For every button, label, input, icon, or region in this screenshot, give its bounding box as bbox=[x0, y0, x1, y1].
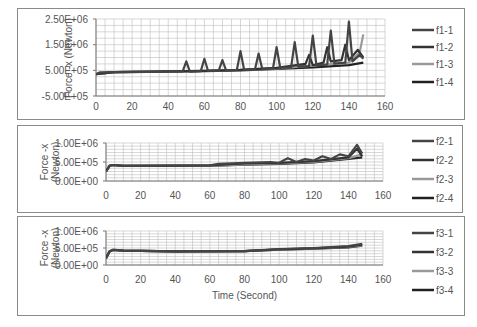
x-tick-label: 160 bbox=[375, 274, 392, 285]
x-tick-label: 40 bbox=[163, 101, 175, 112]
y-tick-label: 5.00E+05 bbox=[55, 157, 99, 168]
legend-label: f3-1 bbox=[436, 228, 454, 239]
y-tick-label: 1.00E+06 bbox=[55, 226, 99, 237]
legend-label: f1-4 bbox=[436, 77, 454, 88]
series-line-f1-3 bbox=[96, 34, 363, 74]
y-axis-label: Force -x bbox=[39, 144, 50, 181]
x-tick-label: 20 bbox=[135, 190, 147, 201]
x-tick-label: 140 bbox=[340, 274, 357, 285]
x-tick-label: 0 bbox=[93, 101, 99, 112]
x-tick-label: 40 bbox=[170, 190, 182, 201]
chart-1: -5.00E+055.00E+051.50E+062.50E+060204060… bbox=[42, 14, 454, 113]
legend-label: f1-1 bbox=[436, 25, 454, 36]
y-axis-label: Force -x (Newton) bbox=[63, 18, 74, 98]
y-tick-label: 0.00E+00 bbox=[55, 176, 99, 187]
chart-3: 0.00E+005.00E+051.00E+060204060801001201… bbox=[39, 226, 454, 302]
charts-canvas: -5.00E+055.00E+051.50E+062.50E+060204060… bbox=[0, 0, 477, 327]
y-tick-label: 5.00E+05 bbox=[55, 243, 99, 254]
x-tick-label: 40 bbox=[170, 274, 182, 285]
x-tick-label: 160 bbox=[377, 101, 394, 112]
x-tick-label: 20 bbox=[135, 274, 147, 285]
x-tick-label: 80 bbox=[239, 274, 251, 285]
legend-label: f3-4 bbox=[436, 285, 454, 296]
x-tick-label: 120 bbox=[305, 274, 322, 285]
x-tick-label: 20 bbox=[127, 101, 139, 112]
x-tick-label: 60 bbox=[199, 101, 211, 112]
legend-label: f3-2 bbox=[436, 247, 454, 258]
legend-label: f2-4 bbox=[436, 193, 454, 204]
x-tick-label: 140 bbox=[340, 190, 357, 201]
legend-label: f3-3 bbox=[436, 266, 454, 277]
x-tick-label: 80 bbox=[239, 190, 251, 201]
x-tick-label: 60 bbox=[204, 274, 216, 285]
legend-label: f2-3 bbox=[436, 174, 454, 185]
legend-label: f1-3 bbox=[436, 59, 454, 70]
x-tick-label: 60 bbox=[204, 190, 216, 201]
x-axis-label: Time (Second) bbox=[212, 290, 277, 301]
x-tick-label: 100 bbox=[268, 101, 285, 112]
x-tick-label: 160 bbox=[375, 190, 392, 201]
y-axis-label: Force -x bbox=[39, 230, 50, 267]
x-tick-label: 100 bbox=[271, 274, 288, 285]
x-tick-label: 140 bbox=[341, 101, 358, 112]
y-axis-label-unit: (Newton) bbox=[50, 142, 61, 183]
chart-2: 0.00E+005.00E+051.00E+060204060801001201… bbox=[39, 136, 454, 204]
x-tick-label: 120 bbox=[305, 190, 322, 201]
series-line-f2-1 bbox=[106, 145, 362, 172]
legend-label: f2-2 bbox=[436, 155, 454, 166]
x-tick-label: 0 bbox=[103, 274, 109, 285]
x-tick-label: 80 bbox=[235, 101, 247, 112]
x-tick-label: 0 bbox=[103, 190, 109, 201]
x-tick-label: 120 bbox=[304, 101, 321, 112]
x-tick-label: 100 bbox=[271, 190, 288, 201]
y-tick-label: 1.00E+06 bbox=[55, 138, 99, 149]
y-tick-label: 0.00E+00 bbox=[55, 260, 99, 271]
legend-label: f2-1 bbox=[436, 136, 454, 147]
y-axis-label-unit: (Newton) bbox=[50, 228, 61, 269]
legend-label: f1-2 bbox=[436, 42, 454, 53]
